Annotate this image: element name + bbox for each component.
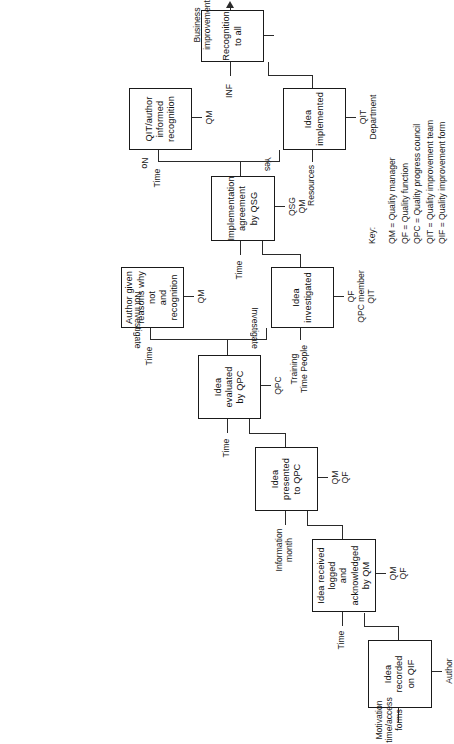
legend-entry: QIF = Quality improvement form <box>436 120 448 244</box>
connector-n1-n2-riser <box>364 626 399 627</box>
output-label-n2: QM QF <box>388 551 408 596</box>
output-label-n6: QF QPC member QIT <box>346 259 377 334</box>
output-label-n3: QM QF <box>330 455 350 500</box>
input-label-n10: INF <box>224 78 234 104</box>
connector-n7-split-vert <box>158 161 280 162</box>
output-stub-n6 <box>334 296 344 297</box>
connector-n7-split <box>240 161 241 176</box>
input-label-n6: Training Time People <box>289 341 309 397</box>
connector-n6-n7-top <box>262 241 263 255</box>
input-label-n5: Time <box>144 342 154 370</box>
node-label: Implementation agreement by QSG <box>226 176 260 240</box>
output-label-n4: QPC <box>273 363 283 408</box>
legend-key: Key: QM = Quality manager QF = Quality f… <box>366 120 448 244</box>
input-label-n4: Time <box>221 434 231 462</box>
branch-label-no: No <box>140 152 150 174</box>
connector-n3-n4-top <box>249 419 250 434</box>
input-label-n1: Motivation time/access forms <box>374 691 405 744</box>
connector-n9-n10-top <box>268 62 269 76</box>
input-stub-n7 <box>240 241 241 255</box>
process-node-idea-received-logged[interactable]: Idea received logged and acknowledged by… <box>312 539 376 612</box>
node-label: Idea recorded on QIF <box>383 655 417 692</box>
connector-n3-n4-riser <box>249 433 286 434</box>
legend-title: Key: <box>366 120 378 244</box>
output-stub-n8 <box>192 117 202 118</box>
input-label-n3: Information month <box>274 524 294 576</box>
branch-label-investigate: Investigate <box>250 302 260 354</box>
input-stub-n10 <box>230 62 231 76</box>
node-label: Idea evaluated by QPC <box>213 367 247 408</box>
connector-n1-n2 <box>398 626 399 640</box>
output-stub-n4 <box>261 385 271 386</box>
legend-entry: QF = Quality function <box>399 120 411 244</box>
input-stub-n5 <box>150 328 151 340</box>
output-stub-n5 <box>184 296 194 297</box>
node-label: QIT/author informed recognition <box>144 96 178 142</box>
input-label-n8: Time <box>152 163 162 193</box>
connector-n9-n10 <box>312 75 313 88</box>
output-label-n7: QSG QM <box>287 184 307 229</box>
branch-label-yes: Yes <box>263 152 273 176</box>
output-stub-n3 <box>318 477 328 478</box>
input-stub-n3 <box>285 511 286 525</box>
connector-n6-n7-riser <box>262 254 301 255</box>
output-stub-n2 <box>376 573 386 574</box>
input-label-n2: Time <box>336 626 346 654</box>
legend-entry: QM = Quality manager <box>386 120 398 244</box>
connector-n4-split <box>227 339 228 355</box>
node-label: Idea received logged and acknowledged by… <box>316 543 372 608</box>
process-node-implementation-agreement[interactable]: Implementation agreement by QSG <box>211 176 275 241</box>
process-node-idea-investigated[interactable]: Idea investigated <box>271 267 334 328</box>
process-node-qit-author-informed[interactable]: QIT/author informed recognition <box>129 88 192 150</box>
input-stub-n6 <box>300 328 301 340</box>
connector-n9-n10-riser <box>268 75 313 76</box>
input-label-n9: Resources <box>306 163 316 208</box>
connector-n6-n7 <box>300 254 301 267</box>
input-label-n7: Time <box>234 256 244 284</box>
connector-branch-investigate <box>266 328 267 340</box>
input-stub-n8 <box>158 150 159 162</box>
connector-n2-n3-top <box>307 511 308 526</box>
legend-entry: QIT = Quality improvement team <box>424 120 436 244</box>
node-label: Recognition to all <box>221 11 243 61</box>
final-arrowhead <box>226 1 234 8</box>
connector-n1-n2-top <box>364 613 365 627</box>
process-node-author-given-reasons[interactable]: Author given reasons why not and recogni… <box>121 267 184 328</box>
input-stub-n4 <box>227 419 228 433</box>
output-stub-n1 <box>432 671 442 672</box>
input-stub-n2 <box>342 612 343 626</box>
legend-entry: QPC = Quality progress council <box>411 120 423 244</box>
input-stub-n9 <box>312 150 313 162</box>
output-stub-n10 <box>264 35 274 36</box>
connector-n3-n4 <box>285 433 286 447</box>
output-stub-n9 <box>346 117 356 118</box>
connector-branch-yes <box>279 150 280 162</box>
output-label-n8: QM <box>204 95 214 140</box>
connector-n2-n3-riser <box>307 525 343 526</box>
node-label: Idea presented to QPC <box>270 458 304 500</box>
process-node-idea-implemented[interactable]: Idea implemented <box>283 88 346 150</box>
process-node-idea-presented[interactable]: Idea presented to QPC <box>255 447 318 511</box>
process-node-idea-evaluated[interactable]: Idea evaluated by QPC <box>198 355 261 419</box>
connector-n2-n3 <box>342 525 343 539</box>
node-label: Idea implemented <box>303 92 325 146</box>
output-label-n1: Author <box>444 646 454 696</box>
output-label-n5: QM <box>196 274 206 319</box>
node-label: Idea investigated <box>291 272 313 322</box>
final-output-label: Business improvement <box>192 0 212 50</box>
output-stub-n7 <box>275 206 285 207</box>
branch-label-not-investigate: Not investigate <box>133 288 143 352</box>
